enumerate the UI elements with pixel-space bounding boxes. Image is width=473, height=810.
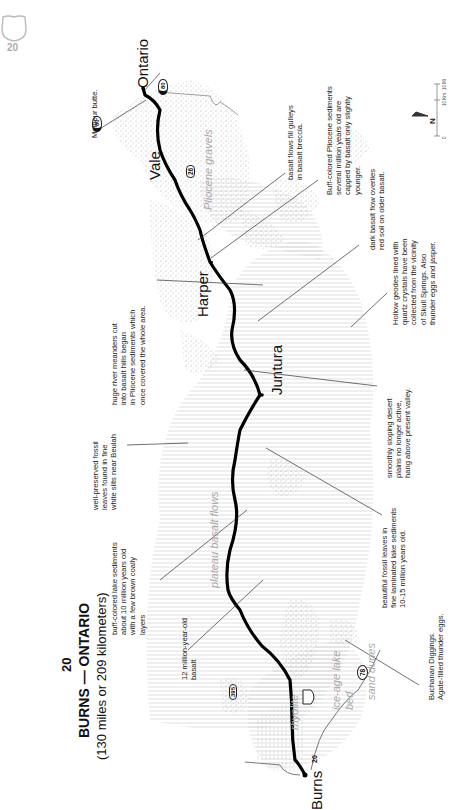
scale-km: 10 Km	[442, 93, 447, 106]
shield-us-20-label: 20	[311, 755, 318, 763]
annotation-buchanan-diggings: Buchanan Diggings. Agate-filled thunder …	[427, 613, 445, 700]
annotation-buff-pliocene: Buff-colored Pliocene sediments several …	[325, 86, 362, 195]
north-arrow	[412, 112, 428, 116]
geo-label-pliocene-gravels: Pliocene gravels	[202, 129, 214, 210]
scale-mi: 10 Mi	[442, 79, 447, 90]
town-label-ontario: Ontario	[134, 39, 151, 88]
shield-us-26: 26	[186, 165, 195, 178]
burns-dot	[303, 773, 308, 778]
geo-label-ice-age-lake-bed: ice-age lake bed	[330, 650, 356, 710]
annotation-basalt-gulleys: basalt flows fill gulleys in basalt brec…	[286, 105, 304, 180]
harper-dot	[211, 261, 213, 263]
town-label-burns: Burns	[308, 771, 325, 810]
scale-zero: 0	[442, 136, 447, 139]
pliocene-gravels-region	[110, 80, 250, 223]
annotation-hollow-geodes: Hollow geodes lined with quartz crystals…	[391, 238, 437, 325]
shield-us-395: 395	[229, 684, 237, 700]
town-label-juntura: Juntura	[268, 345, 285, 395]
geo-label-rhyolite: rhyolite	[288, 695, 300, 730]
geo-label-plateau-basalt: plateau basalt flows	[208, 491, 220, 588]
annotation-beautiful-fossil-leaves: beautiful fossil leaves in fine laminate…	[380, 508, 408, 608]
route-title: BURNS — ONTARIO	[76, 603, 92, 738]
route-distance: (130 miles or 209 kilometers)	[94, 592, 109, 760]
town-label-vale: Vale	[146, 151, 163, 180]
juntura-dot	[260, 393, 264, 397]
annotation-dark-basalt: dark basalt flow overlies red soil on ol…	[368, 169, 386, 250]
scale-bar	[434, 84, 440, 136]
annotation-desert-plains: smoothly sloping desert plains no longer…	[385, 388, 413, 478]
town-label-harper: Harper	[194, 271, 211, 317]
shield-i-80-east: 80	[158, 79, 168, 95]
shield-or-78: 78	[357, 665, 368, 680]
annotation-12my-basalt: 12 million-year-old basalt	[180, 618, 198, 680]
annotation-fossil-leaves-beulah: well-preserved fossil leaves found in fi…	[91, 434, 119, 510]
annotation-buff-lake-sediments: buff-colored lake sediments about 10 mil…	[110, 542, 147, 635]
shield-us-20	[302, 689, 320, 705]
annotation-malheur-butte: Malheur butte.	[90, 89, 99, 138]
chapter-number: 20	[59, 658, 74, 672]
annotation-river-meanders: huge river meanders cut into basalt hill…	[110, 305, 147, 405]
north-label: N	[428, 118, 437, 124]
